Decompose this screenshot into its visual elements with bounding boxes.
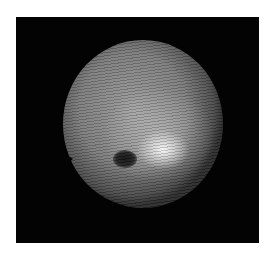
left-notch <box>57 148 73 170</box>
image-frame <box>16 17 259 243</box>
scanline-texture <box>63 40 223 208</box>
specimen-sphere <box>63 40 223 208</box>
